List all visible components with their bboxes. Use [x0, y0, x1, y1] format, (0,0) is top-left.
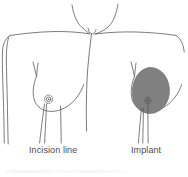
left-shoulder-outline: [10, 32, 90, 36]
left-nipple-areola: [45, 95, 53, 103]
neck-notch: [88, 28, 96, 34]
sternum-centre-line: [86, 34, 91, 131]
left-armpit-line: [6, 38, 8, 145]
right-neck-shoulder: [95, 4, 118, 34]
right-breast-upper-fold: [131, 62, 134, 76]
bottom-scan-artifact: [6, 170, 126, 173]
left-breast-upper-fold: [33, 62, 37, 76]
breast-implant-diagram: Incision line Implant: [0, 0, 188, 177]
implant-label: Implant: [131, 145, 161, 155]
incision-line-label: Incision line: [29, 145, 77, 155]
left-breast-upper-fold-2: [37, 63, 38, 76]
left-breast-outline: [33, 76, 83, 111]
right-breast-upper-fold-2: [135, 63, 136, 76]
right-shoulder-outline: [95, 32, 176, 36]
left-neck-shoulder: [72, 5, 90, 34]
right-arm-outline: [176, 35, 184, 52]
implant-shaded-oval: [132, 68, 169, 114]
